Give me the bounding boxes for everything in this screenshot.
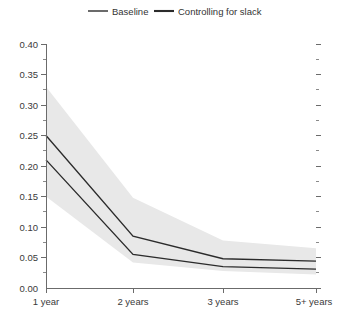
y-tick-label-025: 0.25	[20, 130, 39, 141]
y-tick-label-005: 0.05	[20, 252, 39, 263]
chart-container: Baseline Controlling for slack 0.40 0.35	[0, 0, 351, 314]
right-axis-ticks	[316, 44, 321, 288]
x-tick-label-2-years: 2 years	[117, 296, 148, 307]
x-tick-label-1-year: 1 year	[33, 296, 59, 307]
line-chart: Baseline Controlling for slack 0.40 0.35	[0, 0, 351, 314]
chart-legend: Baseline Controlling for slack	[88, 6, 262, 17]
legend-label-baseline: Baseline	[112, 6, 148, 17]
x-axis: 1 year 2 years 3 years 5+ years	[33, 288, 333, 307]
y-tick-label-030: 0.30	[20, 100, 39, 111]
confidence-band-baseline	[46, 87, 316, 275]
x-tick-label-3-years: 3 years	[207, 296, 238, 307]
y-tick-label-020: 0.20	[20, 161, 39, 172]
y-tick-label-040: 0.40	[20, 39, 39, 50]
y-axis: 0.40 0.35 0.30 0.25 0.20 0.15 0.10 0.05 …	[20, 39, 47, 294]
y-tick-label-035: 0.35	[20, 69, 39, 80]
y-tick-label-015: 0.15	[20, 191, 39, 202]
y-axis-ticks: 0.40 0.35 0.30 0.25 0.20 0.15 0.10 0.05 …	[20, 39, 47, 294]
y-tick-label-000: 0.00	[20, 283, 39, 294]
x-tick-label-5plus-years: 5+ years	[296, 296, 333, 307]
plot-area	[46, 87, 316, 275]
y-tick-label-010: 0.10	[20, 222, 39, 233]
legend-label-controlling-for-slack: Controlling for slack	[178, 6, 262, 17]
